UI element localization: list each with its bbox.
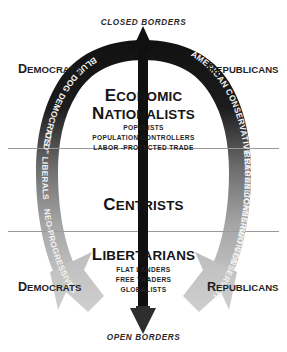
band-title-rest: ENTRISTS	[116, 198, 184, 213]
arrow-up-head-icon	[132, 26, 154, 50]
party-label-democrats-top: DEMOCRATS	[18, 62, 81, 76]
party-label-republicans-top: REPUBLICANS	[207, 62, 278, 76]
party-label-cap: R	[207, 62, 216, 76]
band-title-rest: IBERTARIANS	[102, 248, 195, 263]
party-label-rest: EMOCRATS	[27, 64, 81, 75]
band-subitem-populists: POPULISTS	[0, 124, 287, 131]
band-title-centrists: CENTRISTS	[0, 195, 287, 215]
band-subitem-free-traders: FREE TRADERS	[0, 276, 287, 283]
axis-label-open-borders: OPEN BORDERS	[0, 333, 287, 342]
band-title-cap: E	[105, 86, 117, 105]
axis-label-closed-borders: CLOSED BORDERS	[0, 18, 287, 27]
band-subitem-labor-protected-trade: LABOR -PROTECTED TRADE	[0, 144, 287, 151]
band-title-rest: ATIONALISTS	[105, 107, 195, 122]
band-title-cap: C	[103, 195, 115, 214]
horseshoe-spectrum-graphic: BLUE DOG DEMOCRATS "OLD" LIBERALS NEO-PR…	[0, 0, 287, 352]
band-subitem-population-controllers: POPULATION CONTROLLERS	[0, 134, 287, 141]
band-title-economic-nationalists-line1: ECONOMIC	[0, 86, 287, 106]
party-label-cap: D	[18, 62, 27, 76]
band-title-cap: L	[92, 245, 103, 264]
band-title-economic-nationalists-line2: NATIONALISTS	[0, 104, 287, 124]
band-title-libertarians: LIBERTARIANS	[0, 245, 287, 265]
band-title-cap: N	[92, 104, 104, 123]
band-title-rest: CONOMIC	[116, 89, 182, 104]
diagram-canvas: BLUE DOG DEMOCRATS "OLD" LIBERALS NEO-PR…	[0, 0, 287, 352]
band-subitem-globalists: GLOBALISTS	[0, 286, 287, 293]
band-subitem-flat-landers: FLAT LANDERS	[0, 266, 287, 273]
party-label-rest: EPUBLICANS	[216, 64, 278, 75]
